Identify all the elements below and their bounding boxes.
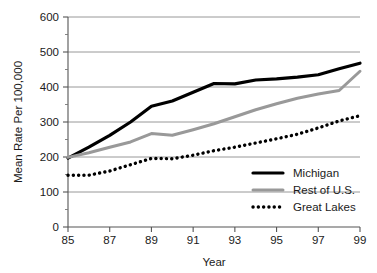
x-tick-label: 89 (145, 234, 158, 246)
y-axis-title: Mean Rate Per 100,000 (12, 61, 24, 183)
y-tick-label: 300 (40, 116, 59, 128)
x-tick-label: 85 (62, 234, 75, 246)
y-tick-label: 200 (40, 151, 59, 163)
chart-container: 0100200300400500600 8587899193959799 Mea… (0, 0, 377, 273)
y-tick-label: 500 (40, 46, 59, 58)
x-tick-label: 87 (103, 234, 116, 246)
y-tick-label: 0 (53, 221, 59, 233)
legend-label-michigan: Michigan (293, 167, 339, 179)
y-tick-label: 400 (40, 81, 59, 93)
legend-label-great-lakes: Great Lakes (293, 201, 356, 213)
x-tick-label: 97 (312, 234, 325, 246)
x-axis-title: Year (202, 256, 225, 268)
x-tick-label: 99 (354, 234, 367, 246)
x-tick-label: 91 (187, 234, 200, 246)
x-tick-label: 95 (270, 234, 283, 246)
line-chart: 0100200300400500600 8587899193959799 Mea… (0, 0, 377, 273)
x-tick-label: 93 (228, 234, 241, 246)
y-tick-label: 600 (40, 11, 59, 23)
y-tick-label: 100 (40, 186, 59, 198)
legend-label-rest-of-u-s: Rest of U.S. (293, 184, 355, 196)
